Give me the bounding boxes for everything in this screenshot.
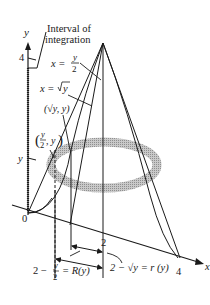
svg-text:y: y bbox=[53, 260, 58, 270]
washer-method-diagram: y Interval of integration 4 y x = y 2 x … bbox=[0, 0, 210, 305]
x-tick-2-label: 2 bbox=[101, 237, 106, 248]
svg-text:y: y bbox=[62, 83, 68, 94]
inner-radius-arrow bbox=[72, 246, 102, 252]
half-point-label: ( y 2 , y ) bbox=[35, 129, 63, 150]
y-tick-y-label: y bbox=[17, 153, 23, 164]
origin-label: 0 bbox=[22, 213, 27, 224]
sqrt-point-label: (√y, y) bbox=[44, 103, 70, 115]
svg-text:y: y bbox=[40, 129, 45, 139]
y-tick-y bbox=[28, 158, 36, 160]
svg-text:2 −: 2 − bbox=[33, 265, 47, 276]
interval-label-line1: Interval of bbox=[47, 23, 92, 34]
svg-text:= R(y): = R(y) bbox=[62, 265, 90, 277]
line-equation-label: x = y 2 bbox=[50, 52, 79, 74]
svg-text:2: 2 bbox=[72, 64, 77, 74]
y-axis-label: y bbox=[23, 26, 29, 38]
svg-text:2: 2 bbox=[53, 272, 57, 282]
outer-radius-label: 2 − y 2 = R(y) bbox=[33, 260, 90, 282]
svg-text:): ) bbox=[58, 132, 63, 149]
svg-text:x =: x = bbox=[50, 58, 65, 69]
outer-radius-leader bbox=[70, 251, 80, 256]
svg-text:y: y bbox=[72, 52, 77, 62]
x-axis-label: x bbox=[204, 261, 210, 272]
y-tick-4 bbox=[28, 58, 36, 60]
sqrt-label-leader bbox=[68, 95, 92, 106]
y-tick-4-label: 4 bbox=[19, 52, 25, 63]
x-tick-4-label: 4 bbox=[176, 266, 182, 277]
interval-label-line2: integration bbox=[45, 34, 91, 45]
sqrt-equation-label: x = y bbox=[39, 82, 70, 94]
inner-radius-label: 2 − √y = r (y) bbox=[110, 262, 169, 274]
y-axis-arrow-icon bbox=[25, 42, 31, 50]
svg-text:, y: , y bbox=[46, 135, 56, 146]
svg-text:2: 2 bbox=[40, 140, 44, 150]
x-axis-arrow-icon bbox=[195, 258, 204, 265]
x-axis bbox=[12, 205, 204, 265]
diagram-canvas: y Interval of integration 4 y x = y 2 x … bbox=[0, 0, 210, 305]
svg-text:x =: x = bbox=[39, 83, 54, 94]
